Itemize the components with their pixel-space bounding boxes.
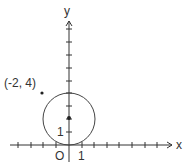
y-axis-label: y [64,4,70,18]
x-tick-label-1: 1 [78,149,85,163]
x-axis-label: x [176,138,182,152]
origin-label: O [55,149,64,163]
coordinate-plane: y x O 1 1 (-2, 4) [0,0,186,166]
center-point [67,116,71,120]
point-neg2-4 [40,91,43,94]
y-tick-label-1: 1 [57,125,64,139]
point-label: (-2, 4) [4,76,36,90]
